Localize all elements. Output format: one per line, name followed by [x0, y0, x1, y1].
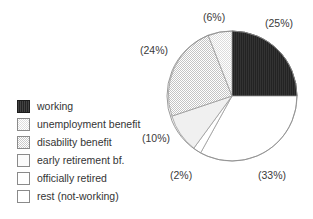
pie-outline	[167, 31, 297, 161]
pie-label-officially-retired: (33%)	[258, 169, 286, 181]
pie-slice-rest	[194, 96, 232, 153]
legend-item-disability-benefit: disability benefit	[17, 133, 167, 151]
swatch-working-icon	[17, 100, 30, 113]
pie-slice-officially-retired	[201, 96, 297, 161]
legend-item-early-retirement: early retirement bf.	[17, 151, 167, 169]
legend-label-working: working	[37, 100, 73, 112]
legend-label-unemployment-benefit: unemployment benefit	[37, 118, 140, 130]
swatch-unemployment-icon	[17, 118, 30, 131]
pie-label-rest: (2%)	[170, 169, 192, 181]
swatch-disability-icon	[17, 136, 30, 149]
legend-item-working: working	[17, 97, 167, 115]
swatch-rest-icon	[17, 190, 30, 203]
pie-chart-figure: (6%) (25%) (24%) (10%) (2%) (33%) workin…	[0, 0, 313, 219]
legend-label-early-retirement: early retirement bf.	[37, 154, 125, 166]
legend-label-rest: rest (not-working)	[37, 190, 119, 202]
legend-label-officially-retired: officially retired	[37, 172, 107, 184]
pie-slice-unemployment	[208, 31, 232, 96]
legend-label-disability-benefit: disability benefit	[37, 136, 112, 148]
swatch-early-retirement-icon	[17, 154, 30, 167]
swatch-officially-retired-icon	[17, 172, 30, 185]
pie-label-working: (25%)	[265, 17, 293, 29]
pie-slice-disability	[168, 35, 232, 116]
pie-slice-working	[232, 31, 297, 96]
chart-legend: working unemployment benefit disability …	[17, 97, 167, 205]
legend-item-unemployment-benefit: unemployment benefit	[17, 115, 167, 133]
legend-item-officially-retired: officially retired	[17, 169, 167, 187]
pie-slice-early-retirement	[172, 96, 232, 148]
pie-label-disability: (24%)	[140, 44, 168, 56]
legend-item-rest: rest (not-working)	[17, 187, 167, 205]
pie-label-unemployment: (6%)	[203, 11, 225, 23]
